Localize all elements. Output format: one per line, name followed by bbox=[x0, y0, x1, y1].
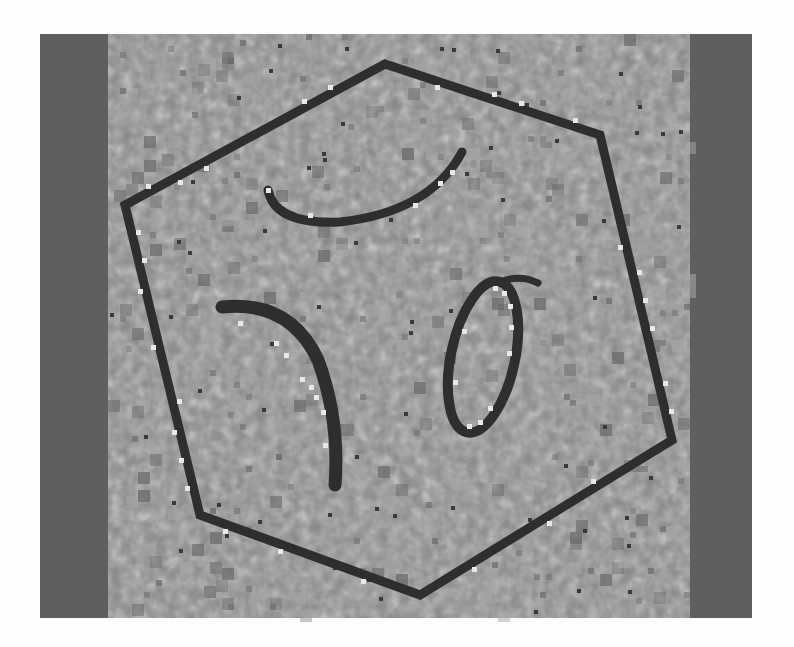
textured-field bbox=[108, 34, 690, 618]
image-canvas bbox=[0, 0, 794, 647]
hexagon-illustration bbox=[0, 0, 794, 647]
